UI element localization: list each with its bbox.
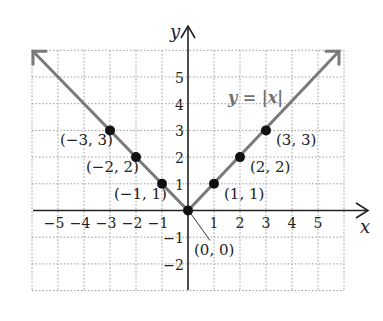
- point-label: (−2, 2): [86, 158, 139, 176]
- x-tick-label: −5: [44, 215, 65, 231]
- origin-leader-line: [190, 213, 210, 241]
- x-tick-label: 4: [288, 215, 297, 231]
- absolute-value-graph: x y −5−4−3−2−11234554321−1−2 (−3, 3)(−2,…: [0, 0, 383, 321]
- point-label: (−1, 1): [114, 185, 167, 203]
- y-axis-label: y: [169, 21, 181, 42]
- x-tick-label: −1: [148, 215, 169, 231]
- y-tick-label: 4: [175, 97, 184, 113]
- data-point: [261, 125, 271, 135]
- y-tick-label: 3: [175, 123, 184, 139]
- point-label: (2, 2): [250, 158, 290, 176]
- x-tick-label: −3: [96, 215, 117, 231]
- x-tick-label: 2: [236, 215, 245, 231]
- function-label: y = |x|: [227, 88, 283, 107]
- point-label: (−3, 3): [60, 131, 113, 149]
- y-tick-label: 1: [175, 177, 184, 193]
- x-tick-label: −4: [70, 215, 91, 231]
- data-point: [209, 179, 219, 189]
- point-label: (0, 0): [194, 241, 234, 259]
- x-tick-label: 5: [314, 215, 323, 231]
- y-tick-label: 5: [175, 70, 184, 86]
- x-tick-label: 1: [210, 215, 219, 231]
- data-point: [183, 206, 193, 216]
- x-tick-label: 3: [262, 215, 271, 231]
- data-point: [235, 152, 245, 162]
- x-axis-label: x: [360, 216, 370, 237]
- x-tick-label: −2: [122, 215, 143, 231]
- point-label: (3, 3): [276, 131, 316, 149]
- point-label: (1, 1): [224, 185, 264, 203]
- y-tick-label: −1: [163, 230, 184, 246]
- y-tick-label: −2: [163, 257, 184, 273]
- y-tick-label: 2: [175, 150, 184, 166]
